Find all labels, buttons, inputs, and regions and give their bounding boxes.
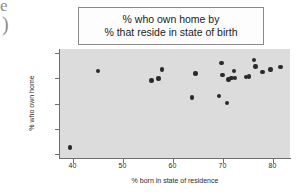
data-point [247,74,251,78]
data-point [232,69,236,73]
data-point [190,95,194,99]
data-point [149,78,153,82]
x-axis-tick-label: 80 [261,162,285,169]
x-axis-line [59,158,291,159]
scatter-plot-figure: e ) % who own home by % that reside in s… [0,0,307,195]
data-point [278,65,282,69]
data-point [219,61,223,65]
x-axis-tick-label: 50 [111,162,135,169]
y-axis-tick [55,78,59,79]
data-point [96,69,100,73]
x-axis-tick-label: 60 [161,162,185,169]
x-axis-title: % born in state of residence [60,177,290,184]
data-point [193,71,197,75]
y-axis-tick [55,154,59,155]
data-point [268,67,272,71]
data-point [156,76,160,80]
scan-artifact-bottom-glyph: ) [2,13,9,36]
y-axis-tick [55,104,59,105]
y-axis-tick [55,129,59,130]
chart-title-box: % who own home by % that reside in state… [78,7,264,45]
data-point [160,67,164,71]
data-point [252,58,256,62]
y-axis-tick [55,53,59,54]
plot-area [60,49,290,158]
data-point [260,70,264,74]
data-point [253,64,257,68]
y-axis-title: % who own home [28,75,35,130]
x-axis-tick-label: 70 [211,162,235,169]
data-point [68,145,72,149]
y-axis-line [59,49,60,159]
data-point [217,94,221,98]
data-point-layer [60,49,290,158]
chart-title-line-1: % who own home by [123,13,220,26]
data-point [233,76,237,80]
data-point [220,73,224,77]
x-axis-tick-label: 40 [61,162,85,169]
data-point [225,101,229,105]
chart-title-line-2: % that reside in state of birth [104,26,237,39]
